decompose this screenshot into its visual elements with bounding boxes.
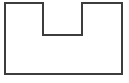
- h-shape-figure: [0, 0, 129, 83]
- h-shape-outline-path: [5, 3, 122, 74]
- figure-canvas: [0, 0, 129, 83]
